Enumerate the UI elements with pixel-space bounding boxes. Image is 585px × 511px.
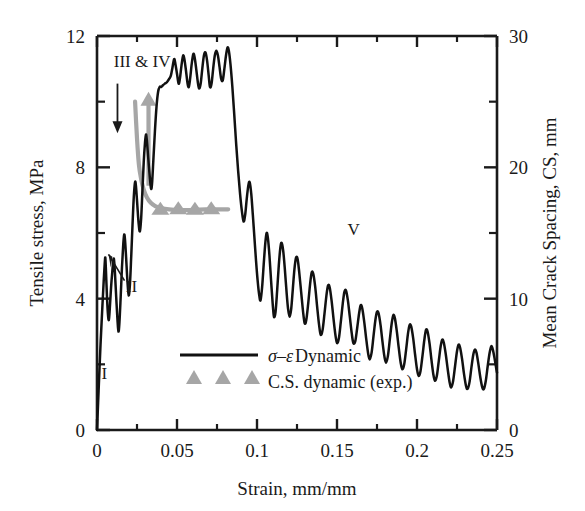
annotation-iiiiv: III & IV	[114, 52, 171, 71]
y2-tick-label: 30	[509, 26, 528, 47]
legend-label-0-symbol: σ–ε	[268, 346, 294, 366]
y-tick-label: 4	[76, 289, 86, 310]
x-tick-label: 0.25	[480, 440, 513, 461]
stress-strain-figure: 00.050.10.150.20.25048120102030 III & IV…	[0, 0, 585, 511]
y-tick-label: 0	[76, 420, 86, 441]
y2-tick-label: 20	[509, 157, 528, 178]
annotation-ii: II	[126, 277, 138, 296]
annotation-i: I	[101, 364, 107, 383]
y2-tick-label: 0	[509, 420, 519, 441]
annotation-v: V	[347, 220, 360, 239]
legend-label-0-text: Dynamic	[295, 346, 361, 366]
x-tick-label: 0.05	[160, 440, 193, 461]
x-axis-title: Strain, mm/mm	[237, 478, 357, 499]
legend-label-1-text: C.S. dynamic (exp.)	[268, 372, 412, 393]
x-tick-label: 0.2	[405, 440, 429, 461]
x-tick-label: 0.1	[245, 440, 269, 461]
y2-tick-label: 10	[509, 289, 528, 310]
y-axis-left-title: Tensile stress, MPa	[26, 159, 47, 307]
y-axis-right-title: Mean Crack Spacing, CS, mm	[539, 117, 560, 348]
chart-canvas: 00.050.10.150.20.25048120102030 III & IV…	[0, 0, 585, 511]
y-tick-label: 12	[66, 26, 85, 47]
x-tick-label: 0	[92, 440, 102, 461]
y-tick-label: 8	[76, 157, 86, 178]
x-tick-label: 0.15	[320, 440, 353, 461]
